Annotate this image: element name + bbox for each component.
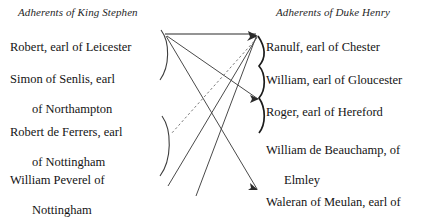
arrowhead-waleran bbox=[248, 183, 258, 190]
connector-chester-to-peverel bbox=[168, 37, 257, 186]
entry-line-1: William, earl of Gloucester bbox=[266, 73, 402, 88]
entry-line-1: William de Beauchamp, of bbox=[266, 143, 400, 158]
connector-chester-to-nottingham-group bbox=[196, 37, 256, 196]
connector-leicester-to-waleran bbox=[166, 36, 257, 189]
connector-leicester-to-hereford bbox=[167, 36, 258, 99]
connector-dashed-chester-to-ferrers bbox=[171, 38, 257, 134]
entry-line-1: Robert de Ferrers, earl bbox=[10, 125, 122, 140]
arrowhead-chester bbox=[247, 31, 258, 41]
arrowhead-hereford bbox=[250, 95, 259, 103]
right-group-brace bbox=[258, 36, 264, 133]
left-entry-william-peverel: William Peverel of Nottingham bbox=[10, 158, 105, 218]
entry-line-1: William Peverel of bbox=[10, 173, 105, 188]
entry-line-1: Roger, earl of Hereford bbox=[266, 105, 383, 120]
right-column-heading: Adherents of Duke Henry bbox=[276, 6, 390, 18]
entry-line-1: Robert, earl of Leicester bbox=[10, 40, 131, 55]
agreement-diagram: Adherents of King Stephen Adherents of D… bbox=[0, 0, 441, 218]
right-entry-waleran-meulan: Waleran of Meulan, earl of Worcester bbox=[266, 180, 401, 218]
left-column-heading: Adherents of King Stephen bbox=[18, 6, 138, 18]
left-upper-brace bbox=[160, 30, 168, 80]
entry-line-2: Nottingham bbox=[10, 203, 105, 218]
entry-line-1: Waleran of Meulan, earl of bbox=[266, 195, 401, 210]
entry-line-1: Ranulf, earl of Chester bbox=[266, 40, 380, 55]
entry-line-1: Simon of Senlis, earl bbox=[10, 72, 115, 87]
left-lower-brace bbox=[160, 116, 169, 176]
